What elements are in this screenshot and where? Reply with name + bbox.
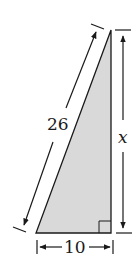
hypotenuse-tick-bottom [13, 227, 26, 232]
hypotenuse-label: 26 [47, 114, 69, 134]
base-label: 10 [64, 237, 86, 257]
hypotenuse-tick-top [91, 24, 104, 29]
vertical-leg-label: x [118, 127, 128, 147]
triangle-diagram: 26 x 10 [0, 0, 140, 271]
